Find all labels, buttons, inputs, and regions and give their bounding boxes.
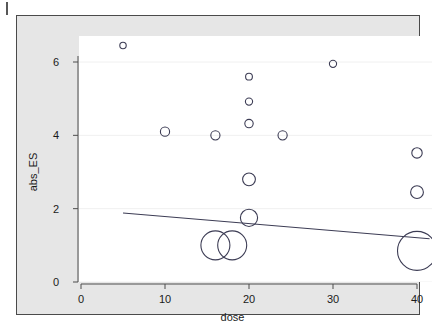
y-tick-label-2: 2 [33, 203, 59, 215]
x-tick-label-40: 40 [411, 293, 423, 305]
x-axis-title: dose [17, 311, 436, 323]
x-tick-label-0: 0 [78, 293, 84, 305]
x-tick-label-30: 30 [327, 293, 339, 305]
x-tick-label-10: 10 [159, 293, 171, 305]
axes-svg [17, 16, 421, 316]
y-tick-label-4: 4 [33, 129, 59, 141]
y-tick-label-6: 6 [33, 56, 59, 68]
plot-panel: 0246010203040 dose abs_ES [16, 15, 420, 315]
y-axis-title: abs_ES [27, 142, 39, 202]
y-tick-label-0: 0 [33, 276, 59, 288]
corner-artifact-mark [6, 2, 8, 15]
x-tick-label-20: 20 [243, 293, 255, 305]
